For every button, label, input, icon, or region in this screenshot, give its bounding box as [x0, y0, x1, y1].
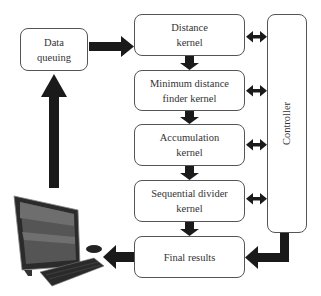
bidir-arrow-min-controller — [246, 85, 267, 97]
min-distance-finder-box: Minimum distance finder kernel — [134, 70, 245, 111]
final-results-box: Final results — [134, 236, 245, 278]
controller-box: Controller — [267, 14, 307, 233]
bidir-arrow-seq-controller — [246, 193, 267, 205]
sequential-divider-box: Sequential divider kernel — [134, 180, 245, 222]
min-distance-finder-label: Minimum distance finder kernel — [150, 76, 229, 106]
accumulation-kernel-box: Accumulation kernel — [134, 124, 245, 166]
bidir-arrow-accum-controller — [246, 139, 267, 151]
arrow-queue-to-distance — [89, 36, 134, 57]
bidir-arrow-distance-controller — [246, 31, 267, 43]
data-queuing-box: Data queuing — [20, 28, 88, 71]
arrow-controller-to-final — [245, 232, 289, 269]
arrow-computer-to-queue — [41, 74, 67, 188]
arrow-min-to-accum — [180, 111, 199, 124]
arrow-accum-to-seq — [180, 166, 199, 180]
sequential-divider-label: Sequential divider kernel — [151, 186, 228, 216]
arrow-seq-to-final — [180, 222, 199, 236]
final-results-label: Final results — [164, 250, 216, 265]
arrow-distance-to-min — [180, 56, 199, 70]
accumulation-kernel-label: Accumulation kernel — [160, 130, 219, 160]
arrow-final-to-computer — [103, 245, 134, 269]
distance-kernel-box: Distance kernel — [134, 14, 245, 56]
computer-icon — [14, 196, 104, 286]
data-queuing-label: Data queuing — [37, 35, 71, 65]
distance-kernel-label: Distance kernel — [171, 20, 208, 50]
controller-label: Controller — [280, 102, 295, 145]
